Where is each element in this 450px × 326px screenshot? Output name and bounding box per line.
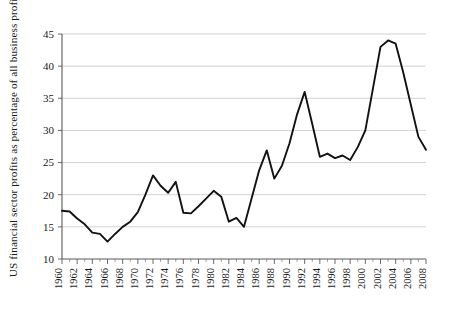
gridlines-group (62, 34, 426, 227)
x-tick-label: 1974 (159, 267, 170, 289)
y-tick-label: 25 (43, 156, 55, 168)
x-tick-label: 1970 (129, 268, 140, 289)
y-axis-ticks-group: 1015202530354045 (43, 28, 62, 265)
y-tick-label: 40 (43, 60, 55, 72)
x-tick-label: 1966 (99, 268, 110, 289)
x-tick-label: 1972 (144, 268, 155, 289)
x-tick-label: 1992 (296, 268, 307, 289)
x-tick-label: 1960 (53, 268, 64, 289)
y-tick-label: 30 (43, 124, 55, 136)
x-tick-label: 1968 (114, 268, 125, 289)
x-tick-label: 1962 (68, 268, 79, 289)
x-tick-label: 1994 (311, 267, 322, 289)
x-tick-label: 1982 (220, 268, 231, 289)
x-tick-label: 2004 (387, 267, 398, 289)
y-axis-label-container: US financial sector profits as percentag… (0, 0, 26, 268)
chart-figure: US financial sector profits as percentag… (0, 0, 450, 326)
line-chart-plot: 1015202530354045 19601962196419661968197… (0, 0, 450, 326)
x-tick-label: 1964 (83, 267, 94, 289)
x-tick-label: 1990 (281, 268, 292, 289)
y-tick-label: 15 (43, 221, 55, 233)
y-tick-label: 20 (43, 189, 55, 201)
y-tick-label: 10 (43, 253, 55, 265)
x-tick-label: 1976 (174, 268, 185, 289)
x-tick-label: 1980 (205, 268, 216, 289)
x-tick-label: 2006 (402, 268, 413, 289)
x-tick-label: 1996 (326, 268, 337, 289)
x-tick-label: 1978 (190, 268, 201, 289)
y-tick-label: 45 (43, 28, 55, 40)
x-tick-label: 2002 (372, 268, 383, 289)
data-series-line (62, 40, 426, 241)
x-axis-ticks-group: 1960196219641966196819701972197419761978… (53, 259, 428, 289)
y-axis-label: US financial sector profits as percentag… (7, 0, 19, 277)
x-tick-label: 1984 (235, 267, 246, 289)
x-tick-label: 2008 (417, 268, 428, 289)
x-tick-label: 1988 (265, 268, 276, 289)
x-tick-label: 1998 (341, 268, 352, 289)
x-tick-label: 1986 (250, 268, 261, 289)
x-tick-label: 2000 (356, 268, 367, 289)
y-tick-label: 35 (43, 92, 55, 104)
